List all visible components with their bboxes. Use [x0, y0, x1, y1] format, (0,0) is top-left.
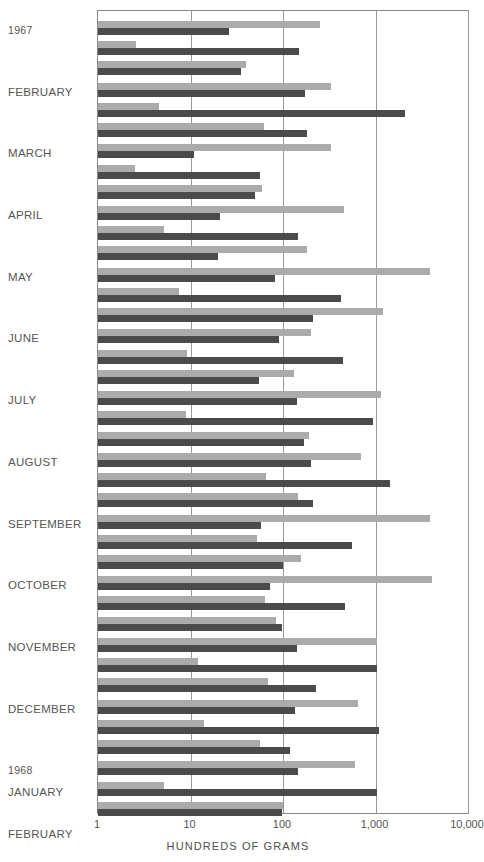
- bar-light-10-0: [98, 638, 377, 645]
- y-label-november: NOVEMBER: [0, 641, 86, 653]
- x-tick-1: 1: [94, 818, 100, 830]
- bar-dark-11-2: [98, 747, 290, 754]
- bars-layer: [98, 11, 468, 813]
- bar-light-4-2: [98, 308, 383, 315]
- bar-dark-8-0: [98, 522, 261, 529]
- bar-light-8-1: [98, 535, 257, 542]
- bar-dark-10-2: [98, 685, 316, 692]
- bar-dark-6-0: [98, 398, 297, 405]
- bar-dark-2-2: [98, 192, 255, 199]
- bar-dark-5-1: [98, 357, 343, 364]
- bar-dark-12-2: [98, 809, 282, 816]
- bar-light-1-1: [98, 103, 159, 110]
- x-axis-tick-labels: 1101001,00010,000: [0, 818, 476, 838]
- bar-light-8-0: [98, 515, 430, 522]
- x-axis-title: HUNDREDS OF GRAMS: [0, 840, 476, 852]
- bar-light-0-1: [98, 41, 136, 48]
- bar-light-5-1: [98, 350, 187, 357]
- bar-light-5-0: [98, 329, 311, 336]
- bar-light-6-0: [98, 391, 381, 398]
- bar-light-6-1: [98, 411, 186, 418]
- bar-light-4-1: [98, 288, 179, 295]
- bar-light-11-1: [98, 720, 204, 727]
- bar-light-8-2: [98, 555, 301, 562]
- bar-dark-1-1: [98, 110, 405, 117]
- y-label-april: APRIL: [0, 209, 86, 221]
- x-tick-10: 10: [183, 818, 195, 830]
- bar-dark-3-1: [98, 233, 298, 240]
- y-label-1967: 1967: [0, 24, 86, 36]
- y-label-july: JULY: [0, 394, 86, 406]
- bar-dark-11-0: [98, 707, 295, 714]
- bar-dark-9-2: [98, 624, 282, 631]
- bar-light-0-0: [98, 21, 320, 28]
- y-label-january: JANUARY: [0, 786, 86, 798]
- bar-dark-1-2: [98, 130, 307, 137]
- bar-light-3-1: [98, 226, 164, 233]
- bar-light-5-2: [98, 370, 294, 377]
- bar-light-1-0: [98, 83, 331, 90]
- bar-dark-7-2: [98, 500, 313, 507]
- x-tick-10000: 10,000: [450, 818, 484, 830]
- bar-light-12-1: [98, 782, 164, 789]
- bar-light-4-0: [98, 268, 430, 275]
- y-label-august: AUGUST: [0, 456, 86, 468]
- bar-dark-10-1: [98, 665, 377, 672]
- bar-light-1-2: [98, 123, 264, 130]
- gridline-10000: [468, 11, 469, 813]
- bar-dark-3-0: [98, 213, 220, 220]
- bar-light-12-0: [98, 761, 355, 768]
- y-label-february: FEBRUARY: [0, 86, 86, 98]
- y-label-december: DECEMBER: [0, 703, 86, 715]
- x-tick-100: 100: [273, 818, 291, 830]
- bar-dark-0-1: [98, 48, 299, 55]
- y-label-1968: 1968: [0, 764, 86, 776]
- bar-dark-8-2: [98, 562, 283, 569]
- bar-light-9-0: [98, 576, 432, 583]
- bar-light-9-2: [98, 617, 276, 624]
- bar-light-3-2: [98, 246, 307, 253]
- bar-dark-12-1: [98, 789, 377, 796]
- bar-light-7-0: [98, 453, 361, 460]
- bar-dark-0-2: [98, 68, 241, 75]
- bar-dark-1-0: [98, 90, 305, 97]
- bar-light-2-0: [98, 144, 331, 151]
- bar-light-10-1: [98, 658, 198, 665]
- y-label-june: JUNE: [0, 332, 86, 344]
- bar-dark-2-0: [98, 151, 194, 158]
- bar-light-7-2: [98, 493, 298, 500]
- bar-dark-4-1: [98, 295, 341, 302]
- bar-dark-11-1: [98, 727, 379, 734]
- bar-dark-0-0: [98, 28, 229, 35]
- bar-light-9-1: [98, 596, 265, 603]
- bar-dark-9-1: [98, 603, 345, 610]
- x-tick-1000: 1,000: [361, 818, 389, 830]
- bar-dark-7-1: [98, 480, 390, 487]
- bar-light-6-2: [98, 432, 309, 439]
- bar-dark-12-0: [98, 768, 298, 775]
- bar-dark-8-1: [98, 542, 352, 549]
- y-label-october: OCTOBER: [0, 579, 86, 591]
- bar-dark-5-2: [98, 377, 259, 384]
- bar-dark-3-2: [98, 253, 218, 260]
- bar-dark-10-0: [98, 645, 297, 652]
- y-label-september: SEPTEMBER: [0, 518, 86, 530]
- bar-light-2-1: [98, 165, 135, 172]
- bar-dark-6-2: [98, 439, 304, 446]
- bar-light-7-1: [98, 473, 266, 480]
- y-label-may: MAY: [0, 271, 86, 283]
- bar-dark-4-0: [98, 275, 275, 282]
- y-axis-month-labels: 1967FEBRUARYMARCHAPRILMAYJUNEJULYAUGUSTS…: [0, 0, 92, 862]
- bar-light-0-2: [98, 61, 246, 68]
- bar-dark-2-1: [98, 172, 260, 179]
- bar-light-11-2: [98, 740, 260, 747]
- bar-light-11-0: [98, 700, 358, 707]
- bar-light-10-2: [98, 678, 268, 685]
- bar-light-12-2: [98, 802, 283, 809]
- bar-dark-6-1: [98, 418, 373, 425]
- bar-dark-7-0: [98, 460, 311, 467]
- bar-dark-5-0: [98, 336, 279, 343]
- bar-light-3-0: [98, 206, 344, 213]
- bar-dark-4-2: [98, 315, 313, 322]
